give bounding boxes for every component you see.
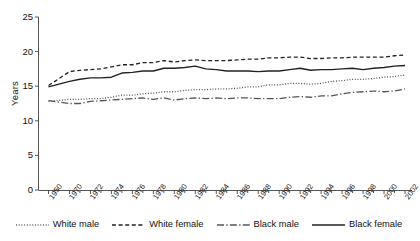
legend-label: White female bbox=[149, 219, 203, 229]
dash-dot-line-icon bbox=[217, 220, 250, 229]
dotted-line-icon bbox=[16, 220, 49, 229]
legend-item-white-male[interactable]: White male bbox=[16, 219, 100, 229]
legend-label: Black male bbox=[254, 219, 299, 229]
legend-item-black-female[interactable]: Black female bbox=[312, 219, 402, 229]
series-line-white-male bbox=[49, 75, 406, 101]
legend-item-white-female[interactable]: White female bbox=[112, 219, 203, 229]
series-line-black-male bbox=[49, 89, 406, 104]
legend-item-black-male[interactable]: Black male bbox=[217, 219, 299, 229]
legend-label: White male bbox=[53, 219, 100, 229]
y-axis-ticks bbox=[35, 17, 39, 190]
plot-area bbox=[0, 0, 418, 200]
solid-line-icon bbox=[312, 220, 345, 229]
chart-legend: White male White female Black male Black… bbox=[0, 219, 418, 229]
dashed-line-icon bbox=[112, 220, 145, 229]
legend-label: Black female bbox=[349, 219, 402, 229]
data-series-layer bbox=[49, 55, 406, 103]
series-line-black-female bbox=[49, 65, 406, 86]
axes bbox=[39, 17, 413, 191]
